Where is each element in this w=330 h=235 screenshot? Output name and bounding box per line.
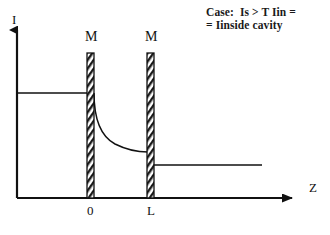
tick-label-cavity-length: L bbox=[147, 203, 155, 219]
x-axis-label: Z bbox=[309, 180, 317, 196]
mirror-left bbox=[87, 53, 94, 198]
y-axis-label: I bbox=[12, 12, 16, 28]
cavity-decay-curve bbox=[94, 93, 148, 152]
case-caption-line-1: Case: Is > T Iin = bbox=[206, 6, 296, 19]
mirror-right bbox=[147, 53, 154, 198]
case-caption-line-2: = Iinside cavity bbox=[206, 19, 283, 32]
figure-canvas: Case: Is > T Iin = = Iinside cavity I Z … bbox=[0, 0, 330, 235]
mirror-right-label: M bbox=[145, 29, 157, 45]
diagram-svg bbox=[0, 0, 330, 235]
tick-label-origin: 0 bbox=[87, 203, 94, 219]
mirror-left-label: M bbox=[85, 29, 97, 45]
